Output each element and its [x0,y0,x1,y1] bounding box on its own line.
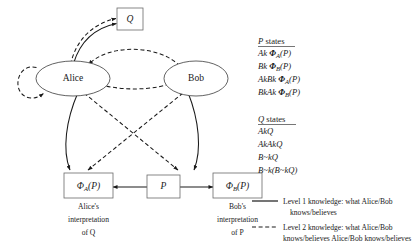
node-phi-b-box[interactable]: ΦB(P) [213,173,262,198]
q-box-label: Q [127,14,134,24]
edge-bob-to-phi-a-level2 [88,93,183,170]
edge-alice-to-phi-b-level2 [84,93,178,170]
phi-a-box-label: ΦA(P) [77,181,100,192]
phi-b-box-label: ΦB(P) [226,181,249,192]
edge-bob-to-phi-b-level1 [188,93,199,171]
edge-bob-to-alice-level2 [89,49,181,66]
caption-bob-interpretation: Bob's interpretation of P [217,202,258,237]
caption-bob-line2: interpretation [217,215,258,224]
phi-b-argument: (P) [237,181,249,192]
p-states-heading: P states [257,36,285,46]
legend-level1-line2: knows/believes [290,208,337,217]
p-states-item: BkAk ΦB(P) [258,87,300,98]
node-phi-a-box[interactable]: ΦA(P) [64,173,113,198]
q-states-item: B~kQ [258,152,279,162]
p-state-0-arg: (P) [280,48,291,58]
caption-alice-line1: Alice's [78,202,99,211]
p-states-item: Ak ΦA(P) [257,48,291,59]
p-state-1-arg: (P) [280,61,291,71]
alice-label: Alice [63,73,84,83]
p-state-2-prefix: AkBk [257,74,278,84]
q-states-item: AkAkQ [257,139,283,149]
p-state-2-arg: (P) [289,74,300,84]
caption-alice-interpretation: Alice's interpretation of Q [68,202,109,237]
legend-level1-line1: Level 1 knowledge: what Alice/Bob [283,197,393,206]
phi-b-symbol: Φ [226,181,233,191]
legend-level2-line1: Level 2 knowledge: what Alice/Bob [283,223,393,232]
bob-label: Bob [188,73,204,83]
phi-a-symbol: Φ [77,181,84,191]
p-state-3-prefix: BkAk [258,87,278,97]
phi-a-argument: (P) [88,181,100,192]
edge-alice-to-q-level1 [74,24,117,64]
q-states-item: B~k(B~kQ) [258,165,297,175]
edge-alice-to-phi-a-level1 [66,93,78,171]
node-p-box[interactable]: P [147,175,180,198]
q-states-heading-word: states [264,114,286,124]
p-states-item: AkBk ΦA(P) [257,74,300,85]
caption-bob-line1: Bob's [229,202,246,211]
p-box-label: P [160,181,167,191]
p-state-0-prefix: Ak [257,48,269,58]
caption-alice-line2: interpretation [68,215,109,224]
node-q-box[interactable]: Q [117,8,143,30]
caption-bob-line3: of P [231,228,243,237]
caption-alice-line3: of Q [82,228,96,237]
q-states-heading: Q states [258,114,286,124]
p-state-1-prefix: Bk [258,61,269,71]
p-states-item: Bk ΦB(P) [258,61,291,72]
knowledge-levels-diagram: Q Alice Bob ΦA(P) P ΦB(P) Alice's interp… [0,0,419,251]
p-states-heading-word: states [263,36,285,46]
node-alice[interactable]: Alice [36,61,110,96]
legend-level2-line2: knows/believes Alice/Bob knows/believes [283,234,411,243]
panel-q-states: Q states AkQ AkAkQ B~kQ B~k(B~kQ) [257,114,297,175]
panel-p-states: P states Ak ΦA(P) Bk ΦB(P) AkBk ΦA(P) Bk… [257,36,300,98]
legend: Level 1 knowledge: what Alice/Bob knows/… [252,197,411,243]
q-states-item: AkQ [257,126,274,136]
node-bob[interactable]: Bob [164,61,228,96]
p-state-3-arg: (P) [289,87,300,97]
